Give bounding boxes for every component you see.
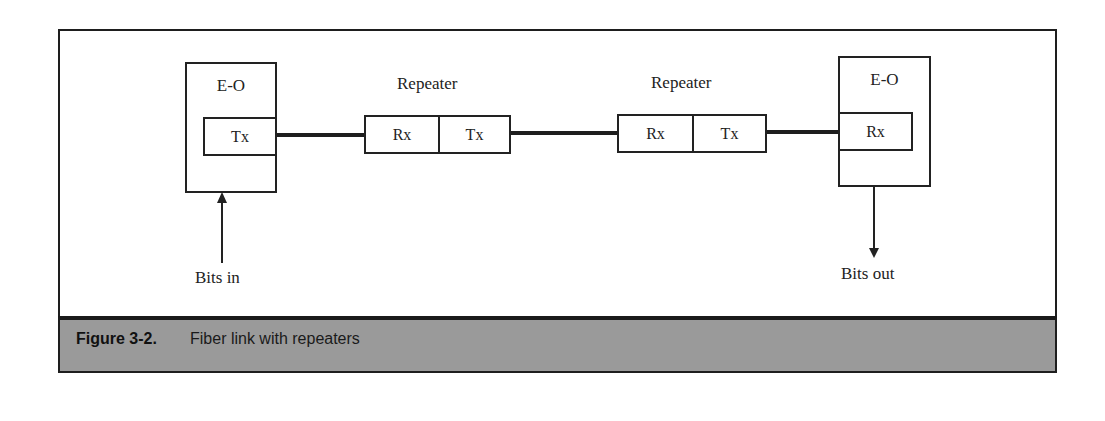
bits-out-label: Bits out	[841, 264, 894, 284]
figure-number: Figure 3-2.	[76, 330, 157, 348]
bits-out-arrow-icon	[869, 187, 879, 258]
bits-in-arrow-icon	[217, 192, 227, 263]
bits-in-label: Bits in	[195, 268, 240, 288]
figure-caption: Fiber link with repeaters	[190, 330, 360, 348]
caption-bar: Figure 3-2. Fiber link with repeaters	[58, 316, 1057, 373]
